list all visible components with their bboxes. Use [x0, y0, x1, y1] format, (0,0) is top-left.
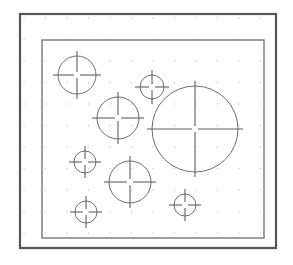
circle-layer[interactable]	[53, 51, 243, 228]
cad-drawing-canvas[interactable]	[0, 0, 293, 265]
grid-dot	[45, 211, 46, 212]
grid-dot	[217, 146, 218, 147]
grid-dot	[195, 232, 196, 233]
grid-dot	[66, 232, 67, 233]
grid-dot	[109, 17, 110, 18]
grid-dot	[195, 211, 196, 212]
grid-dot	[217, 189, 218, 190]
grid-dot	[88, 146, 89, 147]
grid-dot	[174, 146, 175, 147]
grid-dot	[23, 168, 24, 169]
grid-dot	[45, 189, 46, 190]
grid-dot	[88, 211, 89, 212]
grid-dot	[131, 82, 132, 83]
grid-dot	[238, 189, 239, 190]
grid-dot	[23, 103, 24, 104]
grid-dot	[195, 60, 196, 61]
grid-dot	[217, 125, 218, 126]
grid-dot	[45, 168, 46, 169]
grid-dot	[131, 17, 132, 18]
grid-dot	[217, 17, 218, 18]
grid-dot	[66, 82, 67, 83]
grid-dot	[109, 125, 110, 126]
circle-mid-left-small[interactable]	[69, 146, 101, 178]
grid-dot	[23, 39, 24, 40]
grid-dot	[23, 60, 24, 61]
grid-dot	[217, 60, 218, 61]
grid-dot	[260, 17, 261, 18]
grid-dot	[88, 168, 89, 169]
grid-dot-layer	[23, 17, 261, 233]
grid-dot	[66, 189, 67, 190]
grid-dot	[23, 125, 24, 126]
grid-dot	[66, 17, 67, 18]
grid-dot	[45, 125, 46, 126]
grid-dot	[131, 168, 132, 169]
grid-dot	[238, 82, 239, 83]
grid-dot	[260, 211, 261, 212]
circle-lower-middle[interactable]	[104, 156, 156, 208]
grid-dot	[260, 82, 261, 83]
grid-dot	[217, 232, 218, 233]
grid-dot	[152, 211, 153, 212]
grid-dot	[23, 211, 24, 212]
grid-dot	[131, 60, 132, 61]
grid-dot	[152, 146, 153, 147]
circle-center-left[interactable]	[92, 92, 144, 144]
grid-dot	[217, 103, 218, 104]
circle-bottom-left[interactable]	[70, 196, 102, 228]
grid-dot	[238, 168, 239, 169]
grid-dot	[260, 232, 261, 233]
grid-dot	[152, 60, 153, 61]
grid-dot	[109, 103, 110, 104]
grid-dot	[217, 82, 218, 83]
grid-dot	[23, 146, 24, 147]
grid-dot	[260, 189, 261, 190]
grid-dot	[260, 103, 261, 104]
grid-dot	[152, 168, 153, 169]
circle-large-right[interactable]	[147, 81, 243, 177]
grid-dot	[66, 146, 67, 147]
grid-dot	[66, 60, 67, 61]
grid-dot	[174, 103, 175, 104]
grid-dot	[217, 211, 218, 212]
cad-drawing-svg[interactable]	[0, 0, 293, 265]
grid-dot	[88, 232, 89, 233]
grid-dot	[23, 82, 24, 83]
circle-top-left[interactable]	[53, 51, 101, 99]
grid-dot	[174, 125, 175, 126]
circle-bottom-right[interactable]	[169, 189, 201, 221]
grid-dot	[217, 168, 218, 169]
grid-dot	[45, 82, 46, 83]
grid-dot	[45, 103, 46, 104]
grid-dot	[131, 125, 132, 126]
grid-dot	[66, 168, 67, 169]
grid-dot	[174, 17, 175, 18]
grid-dot	[45, 60, 46, 61]
grid-dot	[88, 17, 89, 18]
grid-dot	[109, 146, 110, 147]
grid-dot	[260, 168, 261, 169]
grid-dot	[131, 103, 132, 104]
grid-dot	[174, 168, 175, 169]
grid-dot	[260, 60, 261, 61]
grid-dot	[109, 82, 110, 83]
grid-dot	[88, 82, 89, 83]
grid-dot	[23, 232, 24, 233]
grid-dot	[88, 125, 89, 126]
grid-dot	[195, 17, 196, 18]
grid-dot	[260, 146, 261, 147]
grid-dot	[109, 60, 110, 61]
grid-dot	[174, 60, 175, 61]
grid-dot	[174, 232, 175, 233]
grid-dot	[131, 189, 132, 190]
grid-dot	[45, 232, 46, 233]
grid-dot	[260, 125, 261, 126]
grid-dot	[195, 189, 196, 190]
grid-dot	[238, 17, 239, 18]
grid-dot	[23, 17, 24, 18]
grid-dot	[238, 146, 239, 147]
grid-dot	[45, 17, 46, 18]
grid-dot	[238, 232, 239, 233]
grid-dot	[66, 211, 67, 212]
